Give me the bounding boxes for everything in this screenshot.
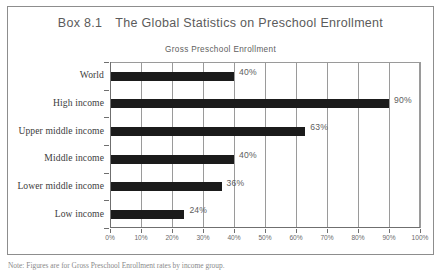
x-axis-tick-label: 20% xyxy=(165,234,178,241)
category-label: World xyxy=(80,69,104,80)
x-axis-tick xyxy=(110,229,111,233)
x-axis-tick xyxy=(234,229,235,233)
x-axis-tick-label: 80% xyxy=(351,234,364,241)
y-axis-line xyxy=(110,62,111,228)
x-axis-tick-label: 90% xyxy=(382,234,395,241)
chart-title: Gross Preschool Enrollment xyxy=(8,45,433,54)
bar xyxy=(110,182,222,191)
bar-row: 90% xyxy=(110,90,420,118)
x-axis-tick xyxy=(265,229,266,233)
x-axis-tick xyxy=(327,229,328,233)
x-axis-tick-label: 100% xyxy=(412,234,429,241)
footnote: Note: Figures are for Gross Preschool En… xyxy=(8,261,428,270)
x-axis-tick-label: 10% xyxy=(134,234,147,241)
bar xyxy=(110,99,389,108)
y-axis-tick xyxy=(104,228,109,229)
box-title-text: The Global Statistics on Preschool Enrol… xyxy=(115,16,383,30)
bar-value-label: 36% xyxy=(227,178,245,188)
x-axis-tick xyxy=(420,229,421,233)
bar-value-label: 90% xyxy=(394,95,412,105)
y-axis-tick xyxy=(104,90,109,91)
bar-row: 24% xyxy=(110,200,420,228)
chart-plot-area: 40%90%63%40%36%24% xyxy=(110,62,420,228)
x-axis-tick xyxy=(203,229,204,233)
category-label: Upper middle income xyxy=(18,125,104,136)
y-axis-tick xyxy=(104,117,109,118)
category-label: Middle income xyxy=(44,152,104,163)
x-axis-tick xyxy=(358,229,359,233)
bar-value-label: 40% xyxy=(239,150,257,160)
bar xyxy=(110,210,184,219)
bar xyxy=(110,72,234,81)
y-axis-tick xyxy=(104,62,109,63)
bar-value-label: 40% xyxy=(239,67,257,77)
x-axis-tick-label: 70% xyxy=(320,234,333,241)
bar-row: 63% xyxy=(110,117,420,145)
category-label: Lower middle income xyxy=(17,180,104,191)
category-label: Low income xyxy=(55,208,104,219)
box-title: Box 8.1The Global Statistics on Preschoo… xyxy=(8,16,433,30)
x-axis-tick xyxy=(172,229,173,233)
x-axis-tick xyxy=(389,229,390,233)
x-axis-tick-label: 40% xyxy=(227,234,240,241)
x-axis-tick xyxy=(296,229,297,233)
x-axis-tick xyxy=(141,229,142,233)
category-axis-labels: WorldHigh incomeUpper middle incomeMiddl… xyxy=(0,62,104,228)
bar-value-label: 24% xyxy=(189,205,207,215)
bar xyxy=(110,155,234,164)
bar-row: 40% xyxy=(110,145,420,173)
x-axis-line xyxy=(110,227,420,228)
box-number-label: Box 8.1 xyxy=(58,16,103,30)
bar-value-label: 63% xyxy=(310,122,328,132)
x-axis-tick-label: 50% xyxy=(258,234,271,241)
gridline xyxy=(420,62,421,228)
bar-row: 40% xyxy=(110,62,420,90)
y-axis-tick xyxy=(104,173,109,174)
x-axis-tick-label: 30% xyxy=(196,234,209,241)
y-axis-tick xyxy=(104,200,109,201)
value-axis-labels: 0%10%20%30%40%50%60%70%80%90%100% xyxy=(110,229,420,245)
x-axis-tick-label: 0% xyxy=(105,234,115,241)
x-axis-tick-label: 60% xyxy=(289,234,302,241)
bar xyxy=(110,127,305,136)
category-label: High income xyxy=(53,97,104,108)
bar-row: 36% xyxy=(110,173,420,201)
y-axis-tick xyxy=(104,145,109,146)
